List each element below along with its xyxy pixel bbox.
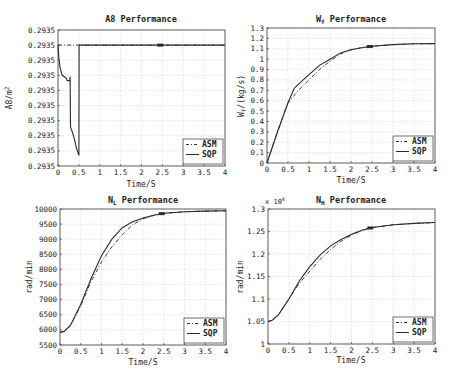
y-tick-label: 0 xyxy=(259,159,264,168)
chart-title: NH Performance xyxy=(316,195,386,206)
y-tick-label: 0.6 xyxy=(250,96,264,105)
y-tick-label: 1.2 xyxy=(250,34,264,43)
y-ticks: 5500600065007000750080008500900095001000… xyxy=(34,205,62,350)
x-tick-label: 2.5 xyxy=(157,347,171,356)
y-ticks: 0.29350.29350.29350.29350.29350.29350.29… xyxy=(28,26,60,171)
legend-label-sqp: SQP xyxy=(202,150,217,159)
y-axis-label: rad/min xyxy=(236,260,245,294)
x-tick-label: 3.5 xyxy=(407,346,421,355)
y-tick-label: 1 xyxy=(260,340,265,349)
y-tick-label: 9000 xyxy=(39,235,58,244)
y-tick-label: 1 xyxy=(259,55,264,64)
chart-title: Wf Performance xyxy=(316,14,386,25)
legend: ASMSQP xyxy=(183,139,223,164)
marker xyxy=(159,212,165,215)
x-tick-label: 2.5 xyxy=(366,346,380,355)
x-tick-label: 4 xyxy=(224,347,229,356)
y-tick-label: 0.2935 xyxy=(28,86,55,95)
marker xyxy=(367,226,373,229)
x-tick-label: 2.5 xyxy=(365,165,379,174)
chart-nl-performance: NL Performance 00.511.522.533.54 5500600… xyxy=(25,195,229,367)
figure: A8 Performance 00.511.522.533.54 0.29350… xyxy=(0,0,451,380)
y-tick-label: 0.2935 xyxy=(28,146,55,155)
y-axis-label: Wf/(kg/s) xyxy=(237,75,247,117)
x-tick-label: 1 xyxy=(97,168,102,177)
x-tick-label: 1 xyxy=(307,346,312,355)
y-tick-label: 0.2935 xyxy=(28,26,55,35)
x-tick-label: 3 xyxy=(391,346,396,355)
y-tick-label: 0.9 xyxy=(250,65,264,74)
legend-label-asm: ASM xyxy=(412,318,427,327)
y-tick-label: 1.25 xyxy=(247,227,265,236)
y-tick-label: 6000 xyxy=(39,325,58,334)
y-tick-label: 1.3 xyxy=(250,24,264,33)
legend-label-sqp: SQP xyxy=(412,147,427,156)
y-tick-label: 0.4 xyxy=(250,117,264,126)
legend-label-asm: ASM xyxy=(412,137,427,146)
x-tick-label: 0 xyxy=(56,168,61,177)
legend: ASMSQP xyxy=(393,136,433,161)
y-tick-label: 1.2 xyxy=(251,250,265,259)
legend-label-sqp: SQP xyxy=(203,329,218,338)
y-tick-label: 0.2935 xyxy=(28,71,55,80)
x-axis-label: Time/S xyxy=(337,176,366,185)
y-tick-label: 0.7 xyxy=(250,86,264,95)
x-axis-label: Time/S xyxy=(129,358,158,367)
y-tick-label: 5500 xyxy=(39,341,58,350)
x-tick-label: 0.5 xyxy=(72,168,86,177)
y-tick-label: 1.3 xyxy=(251,205,265,214)
x-tick-label: 3 xyxy=(182,347,187,356)
y-tick-label: 6500 xyxy=(39,310,58,319)
y-tick-label: 8000 xyxy=(39,265,58,274)
x-tick-label: 2.5 xyxy=(156,168,170,177)
y-tick-label: 0.1 xyxy=(250,148,264,157)
x-tick-label: 4 xyxy=(433,165,438,174)
y-tick-label: 0.3 xyxy=(250,127,264,136)
y-tick-label: 0.2935 xyxy=(28,56,55,65)
y-tick-label: 1.05 xyxy=(247,317,265,326)
y-tick-label: 0.2935 xyxy=(28,162,55,171)
chart-wf-performance: Wf Performance 00.511.522.533.54 00.10.2… xyxy=(237,14,438,185)
y-ticks: 11.051.11.151.21.251.3 xyxy=(247,205,270,349)
legend: ASMSQP xyxy=(393,317,433,342)
y-tick-label: 0.2935 xyxy=(28,101,55,110)
y-tick-label: 8500 xyxy=(39,250,58,259)
chart-title: A8 Performance xyxy=(105,14,177,24)
x-tick-label: 3.5 xyxy=(197,168,211,177)
legend: ASMSQP xyxy=(184,318,224,343)
legend-label-asm: ASM xyxy=(203,319,218,328)
y-tick-label: 10000 xyxy=(34,205,57,214)
y-ticks: 00.10.20.30.40.50.60.70.80.911.11.21.3 xyxy=(250,24,269,168)
y-multiplier: x 104 xyxy=(265,196,285,206)
y-tick-label: 7500 xyxy=(39,280,58,289)
x-tick-label: 2 xyxy=(349,165,354,174)
y-tick-label: 1.15 xyxy=(247,272,265,281)
x-tick-label: 4 xyxy=(223,168,228,177)
y-tick-label: 9500 xyxy=(39,220,58,229)
x-tick-label: 0 xyxy=(266,346,271,355)
x-tick-label: 1 xyxy=(99,347,104,356)
y-axis-label: rad/min xyxy=(25,260,34,294)
y-tick-label: 0.2935 xyxy=(28,116,55,125)
y-tick-label: 0.2 xyxy=(250,138,264,147)
y-axis-label: A8/m2 xyxy=(3,86,14,109)
x-tick-label: 0 xyxy=(265,165,270,174)
x-tick-label: 0.5 xyxy=(281,165,295,174)
x-tick-label: 2 xyxy=(139,168,144,177)
x-tick-label: 3 xyxy=(181,168,186,177)
chart-a8-performance: A8 Performance 00.511.522.533.54 0.29350… xyxy=(3,14,228,189)
y-tick-label: 0.8 xyxy=(250,75,264,84)
y-tick-label: 0.2935 xyxy=(28,131,55,140)
x-tick-label: 4 xyxy=(433,346,438,355)
y-tick-label: 1.1 xyxy=(251,295,265,304)
x-tick-label: 3.5 xyxy=(407,165,421,174)
legend-label-asm: ASM xyxy=(202,140,217,149)
x-tick-label: 2 xyxy=(141,347,146,356)
x-tick-label: 1 xyxy=(307,165,312,174)
x-tick-label: 1.5 xyxy=(324,346,338,355)
x-tick-label: 0.5 xyxy=(74,347,88,356)
x-tick-label: 1.5 xyxy=(323,165,337,174)
y-tick-label: 0.5 xyxy=(250,107,264,116)
x-tick-label: 1.5 xyxy=(115,347,129,356)
chart-title: NL Performance xyxy=(108,195,178,206)
